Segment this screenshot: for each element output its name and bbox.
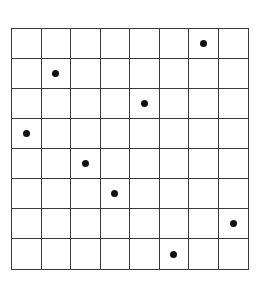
grid-cell bbox=[219, 179, 249, 209]
grid-cell bbox=[42, 89, 72, 119]
grid-cell bbox=[71, 179, 101, 209]
grid-cell bbox=[189, 179, 219, 209]
marker-dot-icon bbox=[23, 130, 30, 137]
grid-cell bbox=[71, 149, 101, 179]
grid-cell bbox=[189, 29, 219, 59]
grid-cell bbox=[160, 59, 190, 89]
grid-cell bbox=[189, 239, 219, 269]
grid-cell bbox=[42, 179, 72, 209]
grid-cell bbox=[42, 209, 72, 239]
grid-cell bbox=[71, 59, 101, 89]
grid-cell bbox=[101, 59, 131, 89]
grid-cell bbox=[130, 149, 160, 179]
grid-cell bbox=[12, 209, 42, 239]
grid-cell bbox=[219, 29, 249, 59]
marker-dot-icon bbox=[170, 251, 177, 258]
marker-dot-icon bbox=[141, 100, 148, 107]
grid-cell bbox=[160, 119, 190, 149]
grid-cell bbox=[71, 209, 101, 239]
grid-cell bbox=[189, 59, 219, 89]
grid-cell bbox=[130, 239, 160, 269]
grid-cell bbox=[219, 239, 249, 269]
diagram-canvas bbox=[0, 0, 262, 286]
grid-cell bbox=[219, 149, 249, 179]
grid-cell bbox=[101, 149, 131, 179]
grid-cell bbox=[130, 29, 160, 59]
grid-cell bbox=[42, 239, 72, 269]
grid-cell bbox=[160, 29, 190, 59]
grid-cell bbox=[130, 179, 160, 209]
grid-cell bbox=[12, 239, 42, 269]
grid-cell bbox=[12, 89, 42, 119]
grid-cell bbox=[12, 149, 42, 179]
grid-cell bbox=[12, 179, 42, 209]
grid-cell bbox=[160, 179, 190, 209]
marker-dot-icon bbox=[200, 40, 207, 47]
grid-cell bbox=[160, 239, 190, 269]
grid-cell bbox=[130, 119, 160, 149]
grid-cell bbox=[160, 209, 190, 239]
grid-cell bbox=[101, 29, 131, 59]
grid-cell bbox=[12, 59, 42, 89]
grid-cell bbox=[189, 89, 219, 119]
grid-cell bbox=[219, 59, 249, 89]
grid-board bbox=[11, 28, 249, 270]
grid-cell bbox=[189, 119, 219, 149]
marker-dot-icon bbox=[111, 190, 118, 197]
grid-cell bbox=[12, 119, 42, 149]
marker-dot-icon bbox=[230, 220, 237, 227]
grid-cell bbox=[219, 209, 249, 239]
grid-cell bbox=[101, 89, 131, 119]
grid-cell bbox=[130, 89, 160, 119]
marker-dot-icon bbox=[52, 70, 59, 77]
grid-cell bbox=[189, 209, 219, 239]
grid-cell bbox=[160, 149, 190, 179]
grid-cell bbox=[71, 239, 101, 269]
grid-cell bbox=[42, 149, 72, 179]
grid-cell bbox=[189, 149, 219, 179]
grid-cell bbox=[219, 89, 249, 119]
grid-cell bbox=[42, 119, 72, 149]
grid-cell bbox=[101, 209, 131, 239]
grid-cell bbox=[71, 89, 101, 119]
grid-cell bbox=[71, 29, 101, 59]
grid-cell bbox=[130, 59, 160, 89]
grid-cell bbox=[160, 89, 190, 119]
grid-cell bbox=[42, 59, 72, 89]
grid-cell bbox=[42, 29, 72, 59]
grid-cell bbox=[12, 29, 42, 59]
grid-cell bbox=[130, 209, 160, 239]
grid-cell bbox=[219, 119, 249, 149]
grid-cell bbox=[71, 119, 101, 149]
grid-cell bbox=[101, 119, 131, 149]
grid-cell bbox=[101, 239, 131, 269]
marker-dot-icon bbox=[82, 160, 89, 167]
grid-cell bbox=[101, 179, 131, 209]
